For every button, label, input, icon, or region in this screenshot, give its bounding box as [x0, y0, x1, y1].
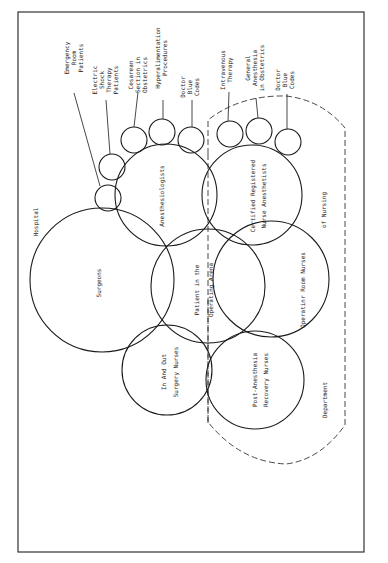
crna-label-line1: Certified Registered [249, 159, 257, 232]
svg-text:Room: Room [70, 50, 77, 65]
svg-text:Codes: Codes [288, 71, 295, 89]
circle-cesarean-section: Cesarean Section in Obstetrics [121, 57, 148, 153]
pacu-label-line1: Post-Anesthesia [251, 353, 258, 408]
svg-text:Blue: Blue [281, 72, 288, 87]
svg-text:Obstetrics: Obstetrics [141, 57, 148, 94]
department-label-top: of Nursing [320, 192, 328, 229]
svg-text:Procedures: Procedures [161, 40, 168, 77]
crna-label-line2: Nurse Anesthetists [260, 163, 267, 228]
svg-text:General: General [244, 55, 251, 81]
svg-text:Therapy: Therapy [226, 57, 234, 83]
svg-text:Section in: Section in [134, 57, 141, 94]
svg-text:in Obstetrics: in Obstetrics [258, 44, 265, 91]
circle-surgeons: Surgeons [30, 208, 174, 352]
circle-or-nurses: Operatinr Room Nurses [213, 221, 329, 337]
surgeons-label: Surgeons [95, 268, 103, 297]
circle-in-out-surgery-nurses: In And Out Surgery Nurses [122, 325, 212, 415]
svg-text:Shock: Shock [98, 71, 105, 89]
anesthesiologists-label: Anesthesiologists [158, 165, 166, 227]
svg-text:Patients: Patients [112, 65, 119, 94]
svg-text:Electric: Electric [91, 65, 98, 94]
or-nurses-label: Operatinr Room Nurses [299, 252, 307, 328]
hospital-venn-diagram: Hospital of Nursing Department Surgeons … [0, 0, 388, 563]
svg-text:Codes: Codes [193, 78, 200, 96]
patient-label-line1: Patient in the [193, 264, 200, 315]
svg-text:Anesthesia: Anesthesia [251, 50, 258, 87]
circle-electric-shock-therapy: Electric Shock Therapy Patients [91, 65, 125, 180]
circle-pacu-nurses: Post-Anesthesia Recovery Nurses [206, 331, 304, 429]
svg-text:Cesarean: Cesarean [127, 60, 134, 89]
in-out-label-line2: Surgery Nurses [172, 346, 180, 397]
svg-text:Doctor: Doctor [274, 69, 281, 91]
circle-hyperalimentation: Hyperalimentation Procedures [149, 27, 175, 145]
circle-intravenous-therapy: Intravenous Therapy [217, 50, 243, 147]
department-label-bottom: Department [321, 382, 329, 419]
circle-general-anesthesia-obstetrics: General Anesthesia in Obstetrics [244, 44, 272, 144]
svg-text:Doctor: Doctor [179, 76, 186, 98]
svg-text:Intravenous: Intravenous [219, 50, 226, 90]
svg-text:Blue: Blue [186, 79, 193, 94]
in-out-label-line1: In And Out [160, 354, 167, 391]
pacu-label-line2: Recovery Nurses [262, 353, 270, 408]
circle-doctor-blue-codes-1: Doctor Blue Codes [178, 76, 204, 153]
circle-doctor-blue-codes-2: Doctor Blue Codes [274, 69, 301, 155]
hospital-label: Hospital [32, 207, 40, 236]
svg-text:Patients: Patients [77, 43, 84, 72]
